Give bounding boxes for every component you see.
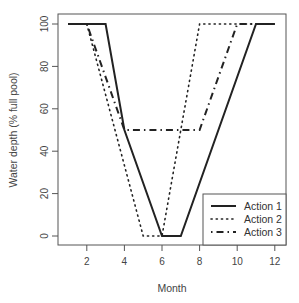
- y-tick-label: 0: [39, 233, 50, 239]
- y-tick-label: 40: [39, 145, 50, 157]
- legend-label-action-1: Action 1: [244, 200, 282, 212]
- x-axis-title: Month: [157, 282, 186, 294]
- x-tick-label: 2: [84, 256, 90, 267]
- x-tick-label: 6: [159, 256, 165, 267]
- x-tick-label: 8: [197, 256, 203, 267]
- x-tick-label: 10: [232, 256, 244, 267]
- y-axis-title: Water depth (% full pool): [7, 72, 19, 187]
- line-chart: 020406080100 24681012 Month Water depth …: [0, 0, 299, 303]
- y-tick-label: 60: [39, 103, 50, 115]
- legend-label-action-3: Action 3: [244, 226, 282, 238]
- legend: Action 1 Action 2 Action 3: [203, 194, 286, 245]
- y-tick-label: 20: [39, 188, 50, 200]
- x-axis: 24681012: [84, 245, 281, 267]
- y-tick-label: 100: [39, 15, 50, 32]
- y-tick-label: 80: [39, 60, 50, 72]
- y-axis: 020406080100: [39, 15, 59, 239]
- x-tick-label: 12: [269, 256, 281, 267]
- legend-label-action-2: Action 2: [244, 213, 282, 225]
- x-tick-label: 4: [122, 256, 128, 267]
